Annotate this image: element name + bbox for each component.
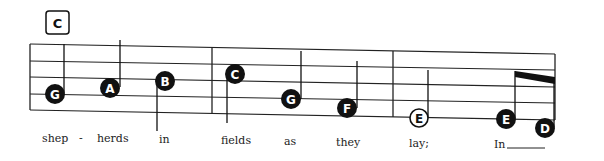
note-b: B (155, 71, 175, 91)
note-label: B (160, 75, 169, 89)
lyric-word: fields (221, 134, 251, 147)
lyric-word: as (284, 135, 297, 148)
note-label: C (231, 68, 240, 82)
note-c: C (225, 64, 245, 84)
lyric-syllable: shep (42, 132, 68, 145)
lyric-word: in (159, 133, 170, 146)
note-e: E (496, 109, 516, 129)
lyrics: shep - herds in fields as they lay; In (42, 132, 545, 151)
note-e-half: E (410, 109, 428, 127)
lyric-word: they (336, 136, 361, 149)
note-label: E (415, 112, 423, 126)
note-d: D (535, 118, 555, 138)
note-label: A (105, 82, 115, 96)
section-label: C (53, 16, 63, 31)
lyric-hyphen: - (79, 132, 83, 145)
note-label: G (286, 93, 296, 107)
note-label: E (502, 113, 510, 127)
note-label: D (540, 122, 550, 136)
music-score: C G A (0, 0, 604, 161)
note-g: G (281, 89, 301, 109)
note-f: F (337, 98, 357, 118)
lyric-syllable: herds (97, 132, 129, 145)
note-a: A (100, 78, 120, 98)
lyric-word: In (494, 138, 505, 151)
beam (515, 71, 555, 84)
lyric-word: lay; (409, 137, 429, 150)
note-g: G (45, 84, 65, 104)
staff-line-2 (30, 61, 555, 70)
note-label: G (50, 88, 60, 102)
staff-line-1 (30, 44, 555, 54)
notes: G A B C G F E E (45, 64, 555, 138)
section-marker: C (46, 11, 69, 34)
note-label: F (343, 102, 351, 116)
staff-line-5 (30, 110, 555, 120)
